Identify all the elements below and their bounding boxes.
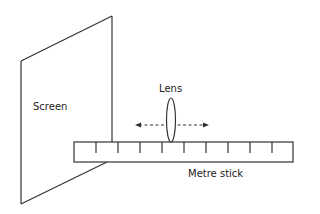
lens-icon — [167, 98, 176, 142]
screen-label: Screen — [33, 102, 67, 112]
metre-stick — [74, 142, 293, 162]
lens-label: Lens — [159, 84, 182, 94]
metre-stick-label: Metre stick — [188, 169, 243, 179]
